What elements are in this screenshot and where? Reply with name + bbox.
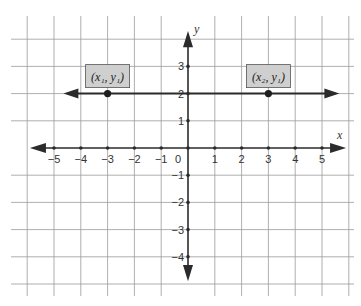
x-tick-label: −4 [75, 153, 88, 165]
x-tick-dot [52, 146, 56, 150]
y-tick-dot [186, 119, 190, 123]
x-tick-label: 0 [175, 153, 181, 165]
line-left-arrow-icon [63, 89, 78, 99]
x-tick-label: 1 [212, 153, 218, 165]
y-axis-label: y [193, 22, 200, 36]
x-tick-label: 3 [265, 153, 271, 165]
point-label: (x₂, y₁) [252, 70, 285, 84]
y-tick-label: 1 [178, 115, 184, 127]
x-tick-dot [159, 146, 163, 150]
x-tick-dot [79, 146, 83, 150]
x-axis-label: x [336, 128, 343, 142]
y-tick-dot [186, 65, 190, 69]
x-tick-dot [293, 146, 297, 150]
y-tick-dot [186, 255, 190, 259]
x-tick-dot [213, 146, 217, 150]
y-tick-dot [186, 201, 190, 205]
coordinate-plane: −5−4−3−2−1012345321−1−2−3−4 (x₁, y₁)(x₂,… [0, 0, 361, 306]
x-axis-right-arrow-icon [330, 143, 346, 153]
origin-dot [186, 146, 190, 150]
x-tick-label: 2 [239, 153, 245, 165]
x-tick-label: −1 [155, 153, 168, 165]
data-point [104, 90, 111, 97]
x-tick-label: −2 [128, 153, 141, 165]
y-tick-label: 3 [178, 60, 184, 72]
x-tick-label: 5 [319, 153, 325, 165]
x-tick-label: −5 [48, 153, 61, 165]
data-point [265, 90, 272, 97]
x-tick-dot [240, 146, 244, 150]
x-tick-dot [106, 146, 110, 150]
x-axis-left-arrow-icon [30, 143, 46, 153]
y-tick-label: −4 [171, 251, 184, 263]
x-tick-label: −3 [101, 153, 114, 165]
y-tick-dot [186, 228, 190, 232]
x-tick-dot [320, 146, 324, 150]
y-axis-down-arrow-icon [183, 265, 193, 281]
y-tick-label: −2 [171, 196, 184, 208]
y-tick-label: −3 [171, 224, 184, 236]
x-tick-dot [133, 146, 137, 150]
x-tick-label: 4 [292, 153, 298, 165]
line-right-arrow-icon [324, 89, 339, 99]
point-label: (x₁, y₁) [91, 70, 124, 84]
x-tick-dot [267, 146, 271, 150]
y-tick-dot [186, 173, 190, 177]
tick-marks: −5−4−3−2−1012345321−1−2−3−4 [48, 60, 325, 262]
y-tick-label: −1 [171, 169, 184, 181]
